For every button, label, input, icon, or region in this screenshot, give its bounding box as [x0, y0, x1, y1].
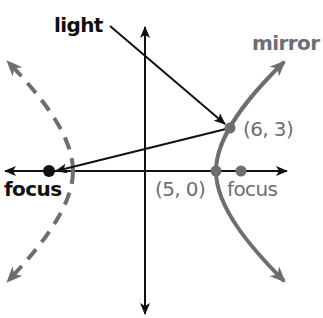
right-focus-label: focus	[227, 177, 278, 201]
vertex-dot	[211, 166, 222, 177]
right-focus-dot	[236, 166, 247, 177]
hyperbola-diagram: light mirror (6, 3) (5, 0) focus focus	[0, 0, 323, 318]
vertex-label: (5, 0)	[155, 177, 205, 201]
reflection-point-label: (6, 3)	[243, 117, 293, 141]
light-label: light	[54, 13, 104, 37]
incoming-light-ray	[110, 26, 225, 124]
left-focus-label: focus	[4, 177, 61, 201]
dashed-hyperbola-branch	[8, 62, 73, 171]
reflection-point-dot	[225, 123, 236, 134]
mirror-label: mirror	[252, 31, 320, 55]
reflected-light-ray	[56, 128, 230, 171]
left-focus-dot	[43, 165, 55, 177]
